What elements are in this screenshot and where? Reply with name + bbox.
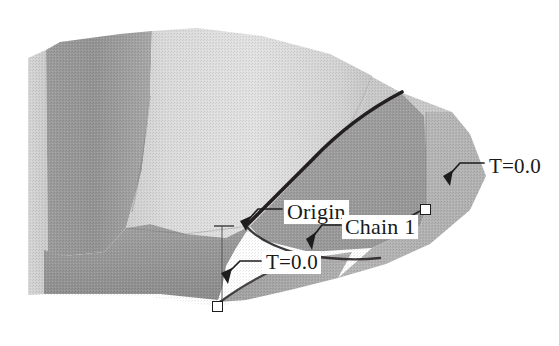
figure-canvas: T=0.0 Origin Chain 1 T=0.0 xyxy=(0,0,559,346)
label-temperature-top-right: T=0.0 xyxy=(487,155,543,178)
label-chain-1: Chain 1 xyxy=(342,215,418,239)
surface-body xyxy=(0,0,559,346)
chain-endpoint-handle-lower[interactable] xyxy=(212,301,223,312)
label-origin: Origin xyxy=(284,200,349,224)
chain-endpoint-handle-upper[interactable] xyxy=(420,204,431,215)
label-temperature-lower-left: T=0.0 xyxy=(263,251,321,274)
surface-render xyxy=(0,0,559,346)
halftone-grain xyxy=(0,0,559,346)
